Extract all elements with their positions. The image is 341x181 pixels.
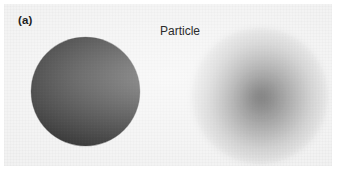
panel-letter-label: (a) xyxy=(18,15,32,27)
figure-plate-background: (a) Particle xyxy=(4,4,332,166)
diffuse-particle-core xyxy=(242,78,278,114)
figure-panel-a: (a) Particle xyxy=(0,0,341,181)
solid-particle-grain-texture xyxy=(31,37,140,146)
solid-particle-disc xyxy=(31,37,140,146)
particle-caption-label: Particle xyxy=(160,25,200,37)
